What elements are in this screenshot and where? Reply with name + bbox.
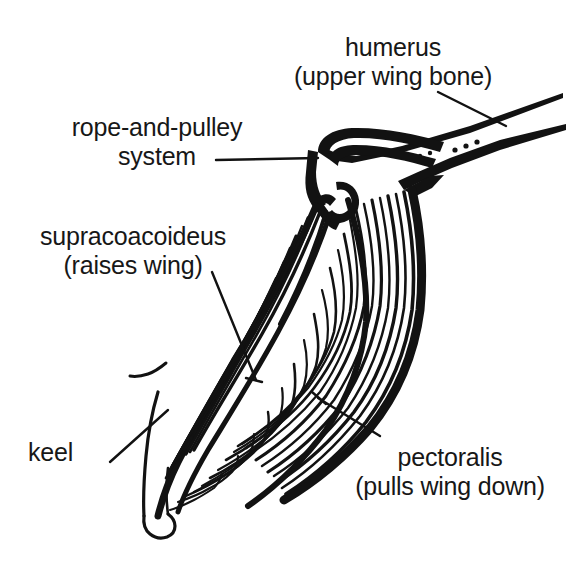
label-pectoralis: pectoralis (pulls wing down) bbox=[338, 443, 562, 501]
humerus-marrow-dot-3 bbox=[474, 139, 479, 144]
label-supracoacoideus-line1: supracoacoideus bbox=[14, 222, 252, 251]
humerus-marrow-dot-5 bbox=[428, 151, 432, 155]
label-keel: keel bbox=[28, 438, 112, 467]
humerus-marrow-dot-1 bbox=[452, 147, 457, 152]
label-humerus-line2: (upper wing bone) bbox=[262, 62, 524, 91]
label-rope-and-pulley-line1: rope-and-pulley bbox=[42, 113, 272, 142]
humerus-marrow-dot-2 bbox=[463, 143, 468, 148]
label-pectoralis-line2: (pulls wing down) bbox=[338, 472, 562, 501]
label-keel-line1: keel bbox=[28, 438, 112, 467]
label-humerus: humerus (upper wing bone) bbox=[262, 33, 524, 91]
label-pectoralis-line1: pectoralis bbox=[338, 443, 562, 472]
anatomy-diagram: humerus (upper wing bone) rope-and-pulle… bbox=[0, 0, 570, 568]
label-rope-and-pulley-line2: system bbox=[42, 142, 272, 171]
label-humerus-line1: humerus bbox=[262, 33, 524, 62]
label-rope-and-pulley: rope-and-pulley system bbox=[42, 113, 272, 171]
label-supracoacoideus-line2: (raises wing) bbox=[14, 251, 252, 280]
label-supracoacoideus: supracoacoideus (raises wing) bbox=[14, 222, 252, 280]
